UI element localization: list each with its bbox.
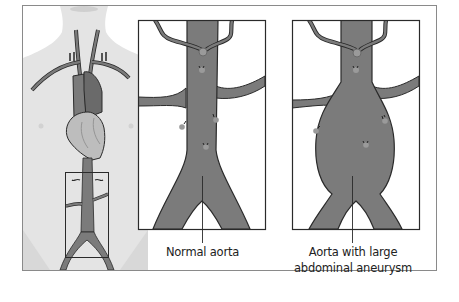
aneurysm-label-line2: abdominal aneurysm [286,260,420,276]
descending-aorta [81,158,94,232]
aneurysm-panel [292,20,420,243]
nipple-left [39,124,44,129]
nipple-right [129,124,134,129]
normal-aorta-panel [138,20,266,243]
aneurysm-label-line1: Aorta with large [292,244,414,260]
normal-aorta-label: Normal aorta [145,244,260,260]
